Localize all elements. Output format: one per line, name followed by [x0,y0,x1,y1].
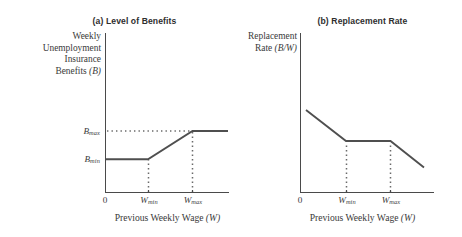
panel-a-ytick-bmin: Bmin [40,154,100,164]
panel-a-xtick-wmax: Wmax [177,195,209,205]
panel-b-x-axis-label: Previous Weekly Wage (W) [295,212,430,223]
figure-container: (a) Level of Benefits Weekly Unemploymen… [0,0,462,237]
replacement-rate-line [306,110,424,168]
panel-level-of-benefits: (a) Level of Benefits Weekly Unemploymen… [0,0,231,237]
panel-replacement-rate: (b) Replacement Rate Replacement Rate (B… [231,0,462,237]
x-axis-label-variable-w: (W) [206,212,220,223]
benefit-schedule-line [106,131,228,159]
panel-a-x-axis-label: Previous Weekly Wage (W) [100,212,235,223]
panel-a-xtick-zero: 0 [93,195,117,205]
x-axis-label-variable-w: (W) [401,212,415,223]
panel-b-xtick-wmin: Wmin [331,195,363,205]
panel-b-xtick-wmax: Wmax [375,195,407,205]
panel-a-ytick-bmax: Bmax [40,126,100,136]
panel-a-xtick-wmin: Wmin [133,195,165,205]
panel-b-xtick-zero: 0 [288,195,312,205]
